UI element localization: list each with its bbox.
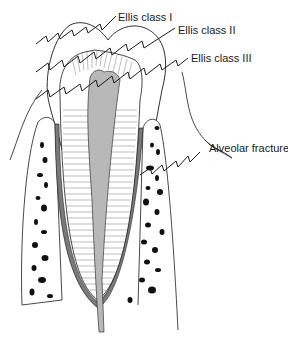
label-ellis-class-3: Ellis class III xyxy=(191,52,252,64)
label-alveolar-fracture: Alveolar fracture xyxy=(209,142,288,154)
tooth-diagram xyxy=(0,0,288,338)
label-ellis-class-2: Ellis class II xyxy=(178,24,235,36)
label-ellis-class-1: Ellis class I xyxy=(118,11,172,23)
ellis-class-1-fracture xyxy=(36,16,116,44)
